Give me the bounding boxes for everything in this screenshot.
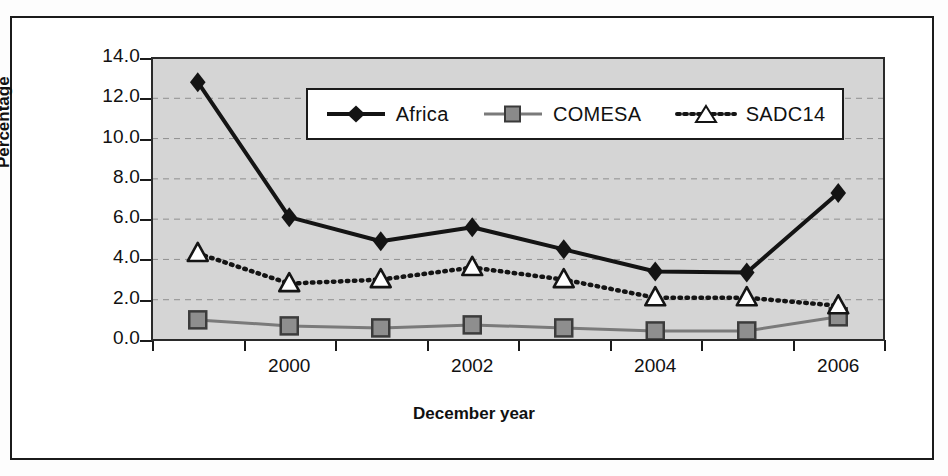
legend-item-sadc14: SADC14	[675, 103, 826, 126]
legend-label-comesa: COMESA	[553, 103, 641, 126]
legend-item-comesa: COMESA	[482, 103, 641, 126]
legend-label-africa: Africa	[396, 103, 449, 126]
chart-legend: Africa COMESA SADC14	[306, 88, 844, 140]
legend-key-comesa	[482, 104, 544, 124]
data-point-africa	[464, 217, 480, 237]
data-point-sadc14	[188, 243, 208, 261]
plot-lines	[0, 0, 948, 476]
data-point-africa	[647, 262, 663, 282]
data-point-africa	[373, 231, 389, 251]
data-point-sadc14	[737, 287, 757, 305]
legend-label-sadc14: SADC14	[746, 103, 826, 126]
legend-item-africa: Africa	[325, 103, 449, 126]
data-point-comesa	[555, 319, 572, 336]
data-point-comesa	[281, 317, 298, 334]
data-point-comesa	[738, 322, 755, 339]
chart-figure: Percentage December year 0.02.04.06.08.0…	[0, 0, 948, 476]
data-point-comesa	[647, 322, 664, 339]
chart-canvas: Percentage December year 0.02.04.06.08.0…	[0, 0, 948, 476]
data-point-comesa	[372, 319, 389, 336]
data-point-comesa	[189, 311, 206, 328]
legend-key-africa	[325, 104, 387, 124]
legend-key-sadc14	[675, 104, 737, 124]
data-point-africa	[556, 239, 572, 259]
data-point-comesa	[464, 316, 481, 333]
